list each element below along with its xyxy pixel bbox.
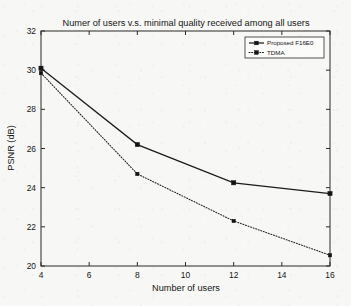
x-tick-label: 10	[181, 270, 191, 280]
series-marker-1	[328, 191, 332, 195]
y-tick-label: 28	[27, 104, 37, 114]
x-tick-label: 4	[39, 270, 44, 280]
x-tick-label: 12	[229, 270, 239, 280]
legend-label-2: TDMA	[267, 49, 285, 56]
plot-frame	[41, 31, 330, 266]
y-tick-label: 32	[27, 26, 37, 36]
y-tick-label: 26	[27, 144, 37, 154]
chart-legend: Proposed F16E0TDMA	[245, 37, 324, 58]
x-tick-label: 16	[325, 270, 335, 280]
legend-sample-marker-1	[255, 41, 259, 45]
series-marker-1	[232, 181, 236, 185]
data-series-group	[39, 66, 332, 257]
legend-sample-marker-2	[255, 51, 259, 55]
series-marker-2	[39, 71, 42, 74]
x-tick-label: 6	[87, 270, 92, 280]
y-tick-label: 20	[27, 261, 37, 271]
y-tick-label: 24	[27, 183, 37, 193]
y-axis-ticks: 20222426283032	[27, 26, 330, 271]
series-line-1	[41, 68, 330, 193]
chart-title: Numer of users v.s. minimal quality rece…	[63, 18, 310, 28]
x-tick-label: 8	[135, 270, 140, 280]
line-chart: Numer of users v.s. minimal quality rece…	[0, 0, 351, 306]
y-tick-label: 22	[27, 222, 37, 232]
legend-label-1: Proposed F16E0	[267, 39, 314, 46]
x-axis-ticks: 46810121416	[39, 31, 335, 280]
x-axis-label: Number of users	[152, 283, 220, 293]
y-axis-label: PSNR (dB)	[6, 125, 16, 170]
series-marker-2	[136, 172, 139, 175]
series-marker-2	[232, 219, 235, 222]
series-marker-1	[39, 66, 43, 70]
series-marker-2	[328, 254, 331, 257]
series-marker-1	[135, 142, 139, 146]
figure-canvas: Numer of users v.s. minimal quality rece…	[0, 0, 351, 306]
x-tick-label: 14	[277, 270, 287, 280]
y-tick-label: 30	[27, 65, 37, 75]
